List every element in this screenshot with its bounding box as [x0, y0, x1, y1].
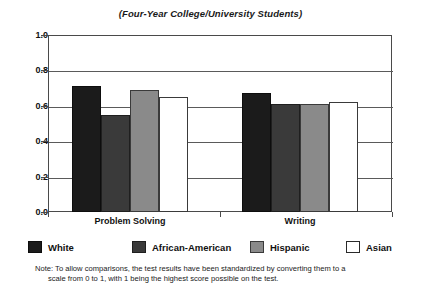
legend-entry: White [28, 240, 74, 254]
legend-swatch-icon [346, 241, 360, 253]
x-axis-category-label: Problem Solving [94, 216, 165, 226]
x-axis-tick-mark [220, 212, 221, 217]
bar [300, 104, 329, 212]
legend-label: Asian [366, 242, 392, 253]
legend-label: Hispanic [270, 242, 310, 253]
bar [271, 104, 300, 212]
bar-chart-figure: (Four-Year College/University Students) … [0, 0, 421, 290]
legend-entry: Asian [346, 240, 392, 254]
legend-entry: Hispanic [250, 240, 310, 254]
legend-swatch-icon [250, 241, 264, 253]
x-axis-tick-mark [392, 212, 393, 217]
chart-title: (Four-Year College/University Students) [0, 8, 421, 19]
legend-swatch-icon [132, 241, 146, 253]
bar [329, 102, 358, 212]
footnote-line-1: Note: To allow comparisons, the test res… [35, 264, 346, 273]
chart-legend: WhiteAfrican-AmericanHispanicAsian [28, 240, 404, 258]
bars-layer [48, 35, 392, 212]
bar [159, 97, 188, 212]
x-axis-category-label: Writing [285, 216, 316, 226]
legend-label: White [48, 242, 74, 253]
bar [242, 93, 271, 212]
bar [72, 86, 101, 212]
chart-footnote: Note: To allow comparisons, the test res… [35, 264, 405, 284]
legend-label: African-American [152, 242, 231, 253]
footnote-line-2: scale from 0 to 1, with 1 being the high… [35, 274, 405, 284]
x-axis-tick-mark [48, 212, 49, 217]
legend-swatch-icon [28, 241, 42, 253]
legend-entry: African-American [132, 240, 231, 254]
bar [101, 115, 130, 212]
bar [130, 90, 159, 212]
